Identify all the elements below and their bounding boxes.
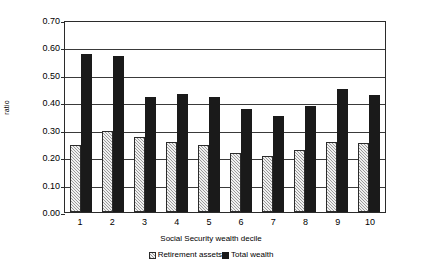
bars-layer xyxy=(65,22,385,212)
bar xyxy=(241,109,252,212)
plot-area: 0.700.600.500.400.300.200.100.00 xyxy=(64,21,386,213)
legend-label: Total wealth xyxy=(231,250,273,260)
bar-group xyxy=(225,22,257,212)
x-axis-tick-labels: 12345678910 xyxy=(64,216,386,228)
x-axis-tick-label: 6 xyxy=(225,216,257,228)
bar-group xyxy=(289,22,321,212)
y-axis-tick-label: 0.70 xyxy=(24,17,60,26)
x-axis-tick-label: 3 xyxy=(128,216,160,228)
bar-group xyxy=(65,22,97,212)
x-axis-tick-label: 4 xyxy=(161,216,193,228)
legend-item: Retirement assets xyxy=(149,250,222,260)
bar-group xyxy=(161,22,193,212)
x-axis-tick-label: 8 xyxy=(289,216,321,228)
bar xyxy=(145,97,156,212)
x-axis-tick-label: 7 xyxy=(257,216,289,228)
y-axis-tick-label: 0.40 xyxy=(24,99,60,108)
x-axis-tick-label: 2 xyxy=(96,216,128,228)
bar-group xyxy=(353,22,385,212)
y-axis-tick-label: 0.50 xyxy=(24,72,60,81)
bar xyxy=(198,145,209,212)
y-axis-title: ratio xyxy=(3,88,10,128)
x-axis-tick-label: 9 xyxy=(322,216,354,228)
x-axis-tick-label: 5 xyxy=(193,216,225,228)
bar xyxy=(337,89,348,212)
y-axis-tick-label: 0.00 xyxy=(24,209,60,218)
bar-group xyxy=(193,22,225,212)
bar xyxy=(209,97,220,212)
tick-mark xyxy=(61,214,65,215)
bar xyxy=(305,106,316,212)
bar-chart: ratio 0.700.600.500.400.300.200.100.00 1… xyxy=(0,0,422,274)
bar xyxy=(113,56,124,212)
legend-item: Total wealth xyxy=(222,250,273,260)
bar-group xyxy=(97,22,129,212)
legend-swatch-retirement-assets xyxy=(149,252,156,259)
bar xyxy=(134,137,145,212)
bar xyxy=(102,131,113,212)
bar xyxy=(81,54,92,212)
y-axis-tick-label: 0.60 xyxy=(24,44,60,53)
bar xyxy=(273,116,284,212)
y-axis-tick-label: 0.20 xyxy=(24,154,60,163)
chart-legend: Retirement assetsTotal wealth xyxy=(0,250,422,260)
bar xyxy=(230,153,241,212)
bar xyxy=(358,143,369,212)
bar-group xyxy=(129,22,161,212)
bar xyxy=(326,142,337,212)
bar xyxy=(166,142,177,212)
bar xyxy=(177,94,188,212)
x-axis-title: Social Security wealth decile xyxy=(0,234,422,244)
bar-group xyxy=(321,22,353,212)
y-axis-tick-label: 0.10 xyxy=(24,182,60,191)
bar xyxy=(294,150,305,212)
y-axis-tick-label: 0.30 xyxy=(24,127,60,136)
legend-swatch-total-wealth xyxy=(222,252,229,259)
bar xyxy=(369,95,380,212)
x-axis-tick-label: 1 xyxy=(64,216,96,228)
bar xyxy=(70,145,81,212)
bar xyxy=(262,156,273,212)
x-axis-tick-label: 10 xyxy=(354,216,386,228)
bar-group xyxy=(257,22,289,212)
legend-label: Retirement assets xyxy=(158,250,222,260)
